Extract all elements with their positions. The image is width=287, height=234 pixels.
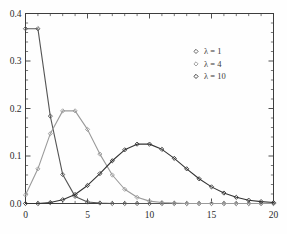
x-tick-label: 0 [23,210,28,220]
poisson-pmf-chart: 05101520 0.00.10.20.30.4 λ = 1λ = 4λ = 1… [0,0,287,234]
y-tick-label: 0.2 [10,104,22,114]
y-tick-label: 0.1 [10,151,22,161]
chart-figure: 05101520 0.00.10.20.30.4 λ = 1λ = 4λ = 1… [0,0,287,234]
y-tick-label: 0.4 [10,9,22,19]
y-tick-label: 0.0 [10,199,22,209]
legend-label: λ = 10 [204,71,226,81]
y-tick-label: 0.3 [10,56,22,66]
legend-label: λ = 4 [204,59,222,69]
x-tick-label: 10 [145,210,155,220]
x-tick-label: 5 [85,210,90,220]
x-tick-label: 15 [207,210,217,220]
x-tick-label: 20 [269,210,279,220]
legend-label: λ = 1 [204,46,221,56]
